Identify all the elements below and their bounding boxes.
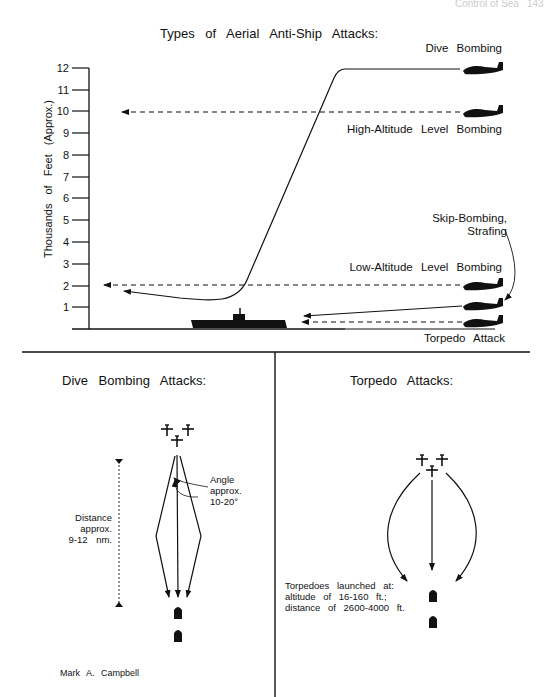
svg-text:4: 4 bbox=[63, 236, 69, 248]
high-level-bomber-icon bbox=[463, 105, 503, 117]
torpedo-plane-icon-center bbox=[426, 466, 438, 477]
skip-bombing-pointer bbox=[505, 230, 515, 300]
aircraft-carrier-icon bbox=[191, 308, 287, 328]
page-header-text: Control of Sea bbox=[455, 0, 519, 9]
torpedo-plane-icon-right bbox=[436, 455, 448, 466]
dive-paths bbox=[156, 455, 208, 597]
label-low-altitude: Low-Altitude Level Bombing bbox=[349, 261, 502, 273]
low-level-bomber-icon bbox=[463, 278, 503, 290]
page-number: 143 bbox=[527, 0, 544, 9]
y-axis bbox=[72, 68, 495, 329]
svg-text:6: 6 bbox=[63, 192, 69, 204]
svg-text:8: 8 bbox=[63, 149, 69, 161]
svg-text:1: 1 bbox=[63, 301, 69, 313]
svg-text:3: 3 bbox=[63, 258, 69, 270]
skip-bombing-path bbox=[304, 306, 462, 316]
torpedo-paths bbox=[388, 473, 477, 581]
distance-label-3: 9-12 nm. bbox=[69, 534, 113, 545]
chart-title: Types of Aerial Anti-Ship Attacks: bbox=[160, 26, 378, 41]
y-axis-label: Thousands of Feet (Approx.) bbox=[42, 100, 54, 258]
target-ship-icon-1 bbox=[174, 607, 182, 619]
y-ticks bbox=[72, 68, 89, 307]
svg-text:2: 2 bbox=[63, 280, 69, 292]
distance-label-1: Distance bbox=[75, 512, 112, 523]
dive-plane-icon-left bbox=[161, 425, 173, 436]
dive-bomber-icon bbox=[463, 62, 503, 74]
dive-panel-title: Dive Bombing Attacks: bbox=[62, 373, 206, 388]
skip-bomber-icon bbox=[463, 298, 503, 310]
angle-label-1: Angle bbox=[210, 474, 234, 485]
label-skip-bombing-1: Skip-Bombing, bbox=[432, 212, 507, 224]
torpedo-bomber-icon bbox=[463, 315, 503, 327]
angle-label-3: 10-20° bbox=[210, 496, 238, 507]
target-ship-icon-2 bbox=[174, 630, 182, 642]
torpedo-panel-title: Torpedo Attacks: bbox=[350, 373, 453, 388]
svg-text:5: 5 bbox=[63, 214, 69, 226]
credit: Mark A. Campbell bbox=[60, 668, 139, 678]
svg-text:12: 12 bbox=[57, 62, 69, 74]
distance-marker bbox=[115, 459, 123, 607]
svg-text:11: 11 bbox=[58, 84, 69, 96]
svg-text:10: 10 bbox=[57, 105, 69, 117]
label-torpedo-attack: Torpedo Attack bbox=[424, 332, 505, 344]
svg-text:9: 9 bbox=[63, 127, 69, 139]
torpedo-note-2: altitude of 16-160 ft.; bbox=[285, 591, 387, 602]
label-dive-bombing: Dive Bombing bbox=[425, 42, 502, 54]
label-skip-bombing-2: Strafing bbox=[467, 225, 507, 237]
torpedo-plane-icon-left bbox=[416, 455, 428, 466]
dive-plane-icon-center bbox=[171, 436, 183, 447]
angle-label-2: approx. bbox=[210, 485, 242, 496]
torpedo-target-ship-icon-2 bbox=[429, 616, 437, 628]
torpedo-note-1: Torpedoes launched at: bbox=[285, 580, 394, 591]
y-tick-labels: 12 11 10 9 8 7 6 5 4 3 2 1 bbox=[57, 62, 69, 313]
diagram-canvas: Control of Sea 143 Types of Aerial Anti-… bbox=[0, 0, 553, 697]
torpedo-target-ship-icon-1 bbox=[429, 590, 437, 602]
svg-text:7: 7 bbox=[63, 171, 69, 183]
label-high-altitude: High-Altitude Level Bombing bbox=[347, 123, 502, 135]
dive-plane-icon-right bbox=[182, 425, 194, 436]
distance-label-2: approx. bbox=[80, 523, 112, 534]
torpedo-note-3: distance of 2600-4000 ft. bbox=[285, 602, 405, 613]
